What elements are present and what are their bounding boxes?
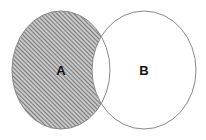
set-a-label: A [56, 63, 66, 78]
set-b-label: B [139, 63, 148, 78]
venn-diagram: A B [0, 0, 206, 140]
